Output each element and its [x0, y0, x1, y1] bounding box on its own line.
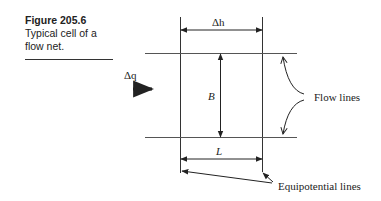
equipotential-lines-label: Equipotential lines [278, 180, 361, 192]
l-label: L [215, 145, 222, 157]
flow-net-cell-diagram: Δh B L Δq Flow lines Equipotential lines [0, 0, 381, 201]
flow-lines-pointer-down [283, 100, 304, 134]
flow-lines-label: Flow lines [314, 91, 360, 103]
delta-q-label: Δq [124, 69, 137, 81]
delta-h-label: Δh [212, 16, 225, 28]
equipotential-pointer-right [263, 173, 273, 182]
flow-lines-pointer-up [283, 57, 304, 94]
equipotential-pointer-left [182, 171, 272, 183]
b-label: B [208, 90, 215, 102]
